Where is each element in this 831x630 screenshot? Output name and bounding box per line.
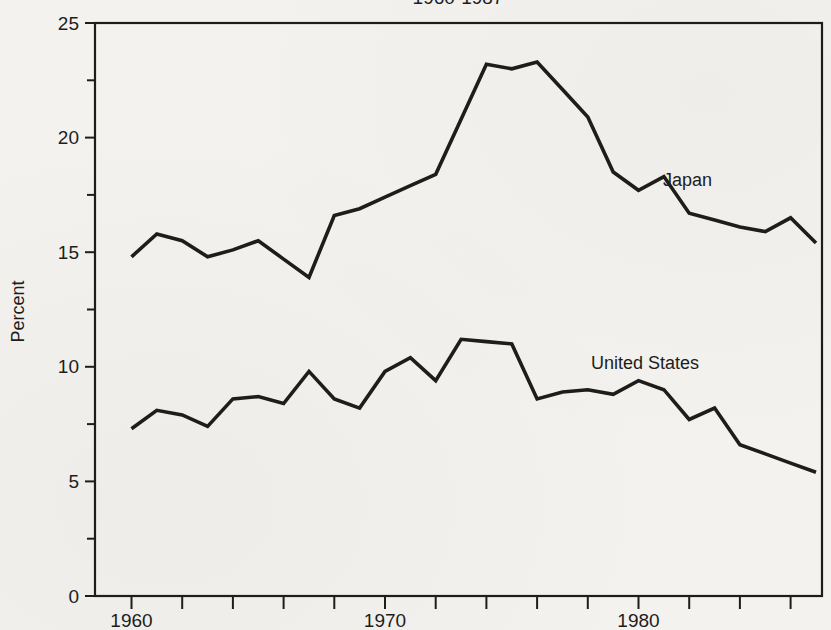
united-states-line (132, 339, 817, 472)
y-tick-label: 25 (58, 13, 79, 34)
japan-series-label: Japan (663, 170, 712, 191)
japan-line (132, 62, 817, 277)
x-tick-label: 1980 (617, 610, 659, 630)
y-tick-label: 15 (58, 242, 79, 263)
us-series-label: United States (591, 353, 699, 374)
x-tick-label: 1970 (364, 610, 406, 630)
y-tick-label: 20 (58, 127, 79, 148)
plot-area: 0510152025196019701980 (0, 0, 831, 630)
y-tick-label: 5 (68, 471, 79, 492)
x-tick-label: 1960 (110, 610, 152, 630)
scanned-chart-page: 1960-1987 Percent 0510152025196019701980… (0, 0, 831, 630)
y-tick-label: 10 (58, 356, 79, 377)
plot-frame (95, 23, 822, 596)
y-tick-label: 0 (68, 586, 79, 607)
